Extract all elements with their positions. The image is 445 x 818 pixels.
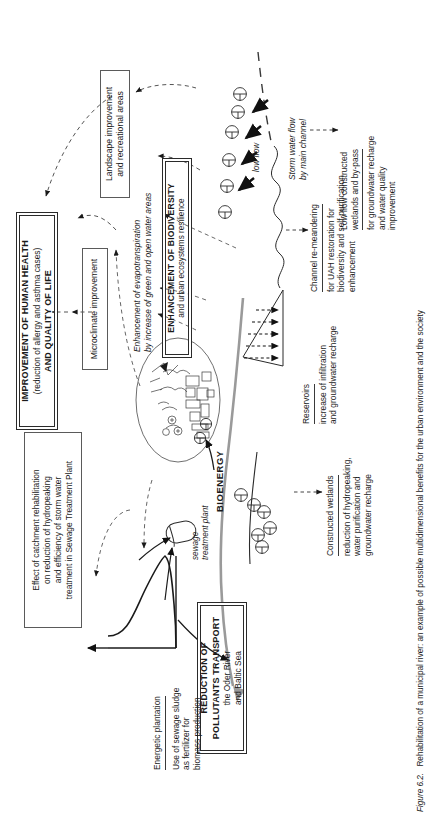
city-buildings-glyph: [150, 362, 214, 438]
reservoir-triangle: [243, 290, 283, 366]
box-enhancement-biodiversity: ENHANCEMENT OF BIODIVERSITY and urban ec…: [162, 158, 192, 358]
figure-canvas: IMPROVEMENT OF HUMAN HEALTH (reduction o…: [0, 0, 445, 818]
energetic-plantation-title: Energetic plantation: [152, 696, 163, 770]
reservoirs-title: Reservoirs: [301, 384, 312, 424]
remeandering-body-3: enhancement: [347, 175, 358, 292]
energetic-plantation-curve: [108, 556, 176, 648]
catchment-line-1: Effect of catchment rehabilitation: [31, 461, 42, 599]
plant-input-arrows: [139, 538, 172, 600]
storm-channel-dashed-bank: [258, 52, 272, 146]
catchment-line-4: treatment in Sewage Treatment Plant: [64, 461, 75, 599]
health-line-2: (reduction of allergy and asthma cases): [32, 240, 43, 402]
label-channel-remeandering: Channel re-meandering for UAH restoratio…: [309, 175, 357, 292]
box-reduction-pollutants-transport: REDUCTION OF POLLUTANTS TRANSPORT the Od…: [197, 602, 247, 754]
storm-water-line-2: by main channel: [298, 118, 309, 180]
lowflow-wetlands-body-1: for groundwater recharge: [366, 124, 377, 230]
biodiversity-line-1: ENHANCEMENT OF BIODIVERSITY: [166, 183, 177, 333]
remeandering-body-1: for UAH restoration for: [326, 175, 337, 292]
label-evapotranspiration: Enhancement of evapotranspiration by inc…: [132, 193, 153, 352]
landscape-line-1: Landscape improvement: [104, 87, 115, 181]
storm-water-line-1: Storm water flow: [287, 118, 298, 180]
evapotranspiration-line-2: by increase of green and open water area…: [143, 193, 154, 352]
label-bioenergy: BIOENERGY: [214, 450, 226, 512]
label-energetic-plantation: Energetic plantation Use of sewage sludg…: [152, 688, 202, 770]
figure-caption-text: Rehabilitation of a municipal river: an …: [416, 310, 425, 766]
figure-caption: Figure 6.2. Rehabilitation of a municipa…: [416, 310, 425, 812]
remeandering-body-2: biodiversity and self-purification: [336, 175, 347, 292]
constructed-wetlands-body-3: groundwater recharge: [363, 457, 374, 556]
label-storm-water-flow: Storm water flow by main channel: [287, 118, 308, 180]
health-line-3: AND QUALITY OF LIFE: [42, 240, 54, 402]
microclimate-label: Microclimate improvement: [89, 259, 100, 359]
plantation-baseline-arrow: [88, 556, 176, 648]
constructed-wetlands-title: Constructed wetlands: [325, 475, 336, 556]
figure-number: Figure 6.2.: [416, 773, 425, 812]
catchment-line-3: and efficiency of storm water: [53, 461, 64, 599]
pollutants-line-2: POLLUTANTS TRANSPORT: [211, 617, 223, 739]
health-line-1: IMPROVEMENT OF HUMAN HEALTH: [20, 240, 32, 402]
catchment-line-2: on reduction of hydropeaking: [42, 461, 53, 599]
remeandering-title: Channel re-meandering: [309, 204, 320, 292]
energetic-plantation-body-1: Use of sewage sludge: [171, 688, 182, 770]
box-landscape-improvement: Landscape improvement and recreational a…: [100, 70, 130, 198]
biodiversity-line-2: and urban ecosystems resilience: [177, 183, 188, 333]
label-reservoirs: Reservoirs increase of infiltration and …: [301, 326, 339, 424]
bioenergy-arrow: [206, 440, 214, 470]
constructed-wetlands-body-1: reduction of hydropeaking,: [342, 457, 353, 556]
energetic-plantation-body-3: biomass production: [192, 688, 203, 770]
river-tributary: [249, 452, 257, 564]
constructed-wetlands-body-2: water purification and: [352, 457, 363, 556]
label-sewage-treatment-plant: sewage treatment plant: [191, 505, 212, 560]
tree-glyphs: [194, 88, 276, 554]
pollutants-line-4: and Baltic Sea: [234, 617, 245, 739]
reservoir-outflow-arrows: [244, 310, 278, 358]
label-low-flow: low flow: [252, 143, 262, 172]
stp-line-2: treatment plant: [201, 505, 211, 560]
label-constructed-wetlands: Constructed wetlands reduction of hydrop…: [325, 457, 373, 556]
pollutants-line-3: the Oder River: [223, 617, 234, 739]
evapotranspiration-line-1: Enhancement of evapotranspiration: [132, 193, 143, 352]
stp-line-1: sewage: [191, 505, 201, 560]
box-microclimate-improvement: Microclimate improvement: [82, 248, 108, 370]
energetic-plantation-body-2: as fertilizer for: [181, 688, 192, 770]
box-improvement-human-health: IMPROVEMENT OF HUMAN HEALTH (reduction o…: [16, 212, 58, 430]
box-catchment-rehabilitation: Effect of catchment rehabilitation on re…: [24, 432, 82, 628]
meandering-channel: [271, 146, 283, 288]
reservoirs-body-1: increase of infiltration: [318, 326, 329, 424]
reservoirs-body-2: and groundwater recharge: [328, 326, 339, 424]
landscape-line-2: and recreational areas: [115, 87, 126, 181]
lowflow-wetlands-body-2: and water quality improvement: [377, 124, 398, 230]
